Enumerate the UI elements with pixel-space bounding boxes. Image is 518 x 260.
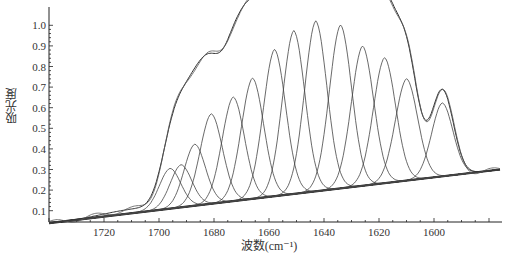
y-tick-label: 0.4 — [32, 143, 46, 155]
component-peak — [49, 21, 500, 223]
component-peak — [49, 31, 500, 224]
y-tick-label: 0.3 — [32, 164, 46, 176]
component-peak — [49, 79, 500, 223]
y-tick-label: 0.5 — [32, 122, 46, 134]
y-tick-label: 0.2 — [32, 184, 46, 196]
spectrum-chart: 0.10.20.30.40.50.60.70.80.91.01720170016… — [0, 0, 518, 260]
y-axis-label: 吸光度 — [6, 88, 20, 124]
component-peak — [49, 103, 500, 223]
y-tick-label: 1.0 — [32, 19, 46, 31]
y-tick-label: 0.6 — [32, 102, 46, 114]
component-peak — [49, 78, 500, 223]
y-tick-label: 0.8 — [32, 61, 46, 73]
component-peak — [49, 58, 500, 223]
y-tick-label: 0.9 — [32, 40, 46, 52]
x-axis-label: 波数(cm⁻¹) — [0, 236, 518, 254]
y-tick-label: 0.1 — [32, 205, 46, 217]
component-peak — [49, 25, 500, 223]
y-tick-label: 0.7 — [32, 81, 46, 93]
